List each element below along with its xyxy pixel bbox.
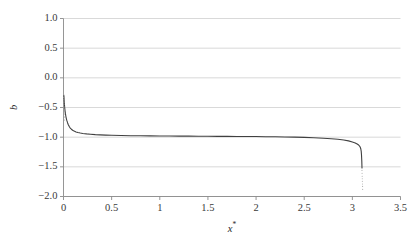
scatter-point bbox=[361, 170, 362, 171]
x-tick-label-5: 2.5 bbox=[284, 203, 324, 214]
x-tick-label-4: 2 bbox=[236, 203, 276, 214]
scatter-point bbox=[64, 113, 65, 114]
x-tick-label-2: 1 bbox=[140, 203, 180, 214]
scatter-point bbox=[63, 102, 64, 103]
scatter-point bbox=[63, 99, 64, 100]
scatter-point bbox=[362, 186, 363, 187]
scatter-point bbox=[362, 173, 363, 174]
scatter-point bbox=[362, 176, 363, 177]
y-tick-label-1: 0.5 bbox=[44, 43, 57, 54]
scatter-point bbox=[362, 178, 363, 179]
y-tick-label-3: −0.5 bbox=[38, 102, 57, 113]
y-tick-label-2: 0.0 bbox=[44, 72, 57, 83]
y-axis-label: b bbox=[9, 104, 20, 109]
scatter-overlay-1 bbox=[361, 170, 363, 190]
scatter-point bbox=[63, 106, 64, 107]
scatter-point bbox=[64, 109, 65, 110]
x-tick-label-3: 1.5 bbox=[188, 203, 228, 214]
scatter-point bbox=[64, 119, 65, 120]
y-tick-label-0: 1.0 bbox=[44, 13, 57, 24]
y-tick-label-4: −1.0 bbox=[38, 132, 57, 143]
series-line-0 bbox=[64, 96, 362, 168]
x-tick-label-7: 3.5 bbox=[381, 203, 416, 214]
scatter-point bbox=[362, 181, 363, 182]
scatter-point bbox=[362, 189, 363, 190]
y-tick-label-6: −2.0 bbox=[38, 191, 57, 202]
x-tick-label-6: 3 bbox=[332, 203, 372, 214]
scatter-point bbox=[64, 116, 65, 117]
scatter-point bbox=[362, 183, 363, 184]
chart-figure: 1.00.50.0−0.5−1.0−1.5−2.000.511.522.533.… bbox=[0, 0, 416, 238]
scatter-point bbox=[63, 94, 64, 95]
x-tick-label-1: 0.5 bbox=[92, 203, 132, 214]
scatter-point bbox=[63, 104, 64, 105]
x-axis-label: x* bbox=[212, 221, 252, 234]
y-tick-label-5: −1.5 bbox=[38, 161, 57, 172]
scatter-point bbox=[64, 111, 65, 112]
scatter-point bbox=[63, 97, 64, 98]
x-tick-label-0: 0 bbox=[44, 203, 84, 214]
